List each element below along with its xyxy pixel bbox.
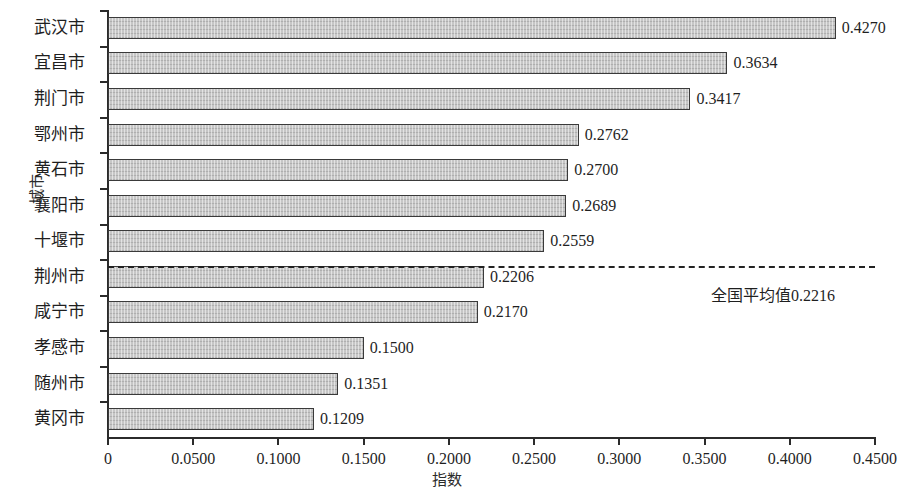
bar-value-label: 0.2762	[585, 125, 629, 145]
y-axis-category-label: 随州市	[0, 375, 85, 392]
national-average-line	[108, 266, 875, 268]
y-axis-tick	[100, 46, 108, 48]
national-average-label: 全国平均值0.2216	[711, 288, 835, 304]
y-axis-tick	[100, 152, 108, 154]
y-axis-category-label: 荆州市	[0, 268, 85, 285]
y-axis-category-label: 鄂州市	[0, 126, 85, 143]
x-axis-tick-label: 0.4500	[830, 450, 902, 468]
bar	[108, 337, 364, 359]
bar-value-label: 0.2170	[484, 302, 528, 322]
x-axis-tick	[107, 437, 109, 445]
x-axis-tick-label: 0.0500	[148, 450, 238, 468]
x-axis-tick	[363, 437, 365, 445]
y-axis-category-label: 孝感市	[0, 339, 85, 356]
y-axis-category-label: 荆门市	[0, 90, 85, 107]
x-axis-tick	[533, 437, 535, 445]
x-axis-tick	[874, 437, 876, 445]
y-axis-tick	[100, 259, 108, 261]
plot-area: 0.42700.36340.34170.27620.27000.26890.25…	[108, 10, 875, 437]
y-axis-category-label: 宜昌市	[0, 54, 85, 71]
y-axis-tick	[100, 188, 108, 190]
x-axis-tick-label: 0.1500	[319, 450, 409, 468]
bar-value-label: 0.1500	[370, 338, 414, 358]
bar-value-label: 0.3634	[733, 53, 777, 73]
x-axis-tick-label: 0.4000	[745, 450, 835, 468]
bar	[108, 17, 836, 39]
y-axis-tick	[100, 10, 108, 12]
x-axis-tick-label: 0.3500	[660, 450, 750, 468]
bar-value-label: 0.2689	[572, 196, 616, 216]
y-axis-category-label: 武汉市	[0, 19, 85, 36]
bar	[108, 88, 690, 110]
x-axis-tick-label: 0.3000	[574, 450, 664, 468]
bar-value-label: 0.1351	[344, 374, 388, 394]
bar-value-label: 0.1209	[320, 409, 364, 429]
bar	[108, 408, 314, 430]
bar-value-label: 0.2700	[574, 160, 618, 180]
bar	[108, 159, 568, 181]
bar	[108, 52, 727, 74]
bar	[108, 124, 579, 146]
x-axis-tick	[704, 437, 706, 445]
x-axis-line	[107, 437, 876, 439]
y-axis-tick	[100, 117, 108, 119]
x-axis-tick	[277, 437, 279, 445]
x-axis-tick	[448, 437, 450, 445]
y-axis-title: 城市	[30, 144, 45, 234]
y-axis-tick	[100, 81, 108, 83]
y-axis-tick	[100, 401, 108, 403]
y-axis-tick	[100, 330, 108, 332]
x-axis-tick-label: 0.2000	[404, 450, 494, 468]
y-axis-tick	[100, 295, 108, 297]
x-axis-tick	[192, 437, 194, 445]
y-axis-category-label: 黄石市	[0, 161, 85, 178]
x-axis-tick-label: 0	[63, 450, 153, 468]
bar	[108, 195, 566, 217]
bar-value-label: 0.4270	[842, 18, 886, 38]
x-axis-tick-label: 0.2500	[489, 450, 579, 468]
bar-value-label: 0.3417	[696, 89, 740, 109]
y-axis-category-label: 黄冈市	[0, 410, 85, 427]
y-axis-category-label: 十堰市	[0, 232, 85, 249]
x-axis-tick	[618, 437, 620, 445]
bar	[108, 230, 544, 252]
bar	[108, 301, 478, 323]
y-axis-tick	[100, 366, 108, 368]
bar	[108, 373, 338, 395]
y-axis-category-label: 咸宁市	[0, 303, 85, 320]
bar-value-label: 0.2559	[550, 231, 594, 251]
bar-value-label: 0.2206	[490, 267, 534, 287]
bar	[108, 266, 484, 288]
x-axis-title: 指数	[0, 468, 893, 489]
x-axis-tick	[789, 437, 791, 445]
y-axis-category-label: 襄阳市	[0, 197, 85, 214]
y-axis-tick	[100, 224, 108, 226]
x-axis-tick-label: 0.1000	[233, 450, 323, 468]
